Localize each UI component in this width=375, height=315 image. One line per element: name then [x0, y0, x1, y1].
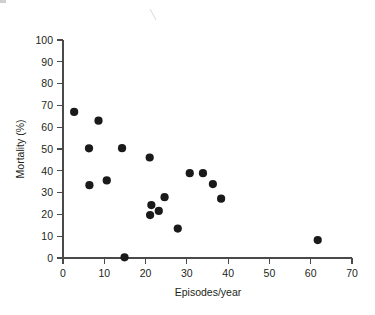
data-point: [155, 207, 163, 215]
y-tick-label-0: 0: [47, 252, 53, 264]
x-tick-label-30: 30: [181, 267, 193, 279]
data-points-layer: [70, 108, 322, 262]
data-point: [70, 108, 78, 116]
x-tick-label-50: 50: [264, 267, 276, 279]
y-axis-tick-labels: 0102030405060708090100: [35, 34, 53, 264]
x-tick-label-70: 70: [346, 267, 358, 279]
y-tick-label-40: 40: [41, 165, 53, 177]
data-point: [146, 211, 154, 219]
x-axis-title: Episodes/year: [175, 286, 242, 298]
data-point: [85, 144, 93, 152]
data-point: [209, 180, 217, 188]
y-tick-label-70: 70: [41, 99, 53, 111]
data-point: [94, 117, 102, 125]
x-tick-label-60: 60: [305, 267, 317, 279]
x-axis-ticks: [63, 258, 352, 264]
x-tick-label-10: 10: [98, 267, 110, 279]
data-point: [118, 144, 126, 152]
data-point: [103, 176, 111, 184]
scatter-plot-canvas: 0102030405060708090100 010203040506070 E…: [0, 0, 375, 315]
y-axis-ticks: [57, 40, 63, 258]
x-tick-label-20: 20: [140, 267, 152, 279]
x-tick-label-40: 40: [222, 267, 234, 279]
y-tick-label-60: 60: [41, 121, 53, 133]
data-point: [217, 195, 225, 203]
data-point: [199, 169, 207, 177]
data-point: [160, 193, 168, 201]
data-point: [85, 181, 93, 189]
y-tick-label-50: 50: [41, 143, 53, 155]
data-point: [314, 236, 322, 244]
scatter-plot-figure: 0102030405060708090100 010203040506070 E…: [0, 0, 375, 315]
y-tick-label-10: 10: [41, 230, 53, 242]
data-point: [147, 201, 155, 209]
y-tick-label-100: 100: [35, 34, 53, 46]
data-point: [146, 153, 154, 161]
data-point: [186, 169, 194, 177]
y-tick-label-80: 80: [41, 77, 53, 89]
y-tick-label-20: 20: [41, 208, 53, 220]
x-axis-tick-labels: 010203040506070: [60, 267, 358, 279]
y-axis-title: Mortality (%): [14, 120, 26, 179]
scan-artifacts: [0, 0, 156, 20]
x-tick-label-0: 0: [60, 267, 66, 279]
y-tick-label-90: 90: [41, 56, 53, 68]
data-point: [174, 224, 182, 232]
data-point: [120, 253, 128, 261]
y-tick-label-30: 30: [41, 186, 53, 198]
